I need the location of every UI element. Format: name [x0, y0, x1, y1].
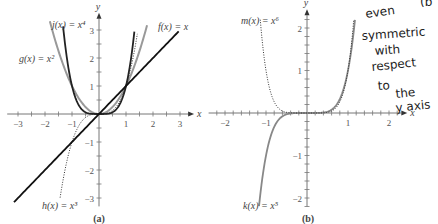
x-tick-label: −1	[261, 118, 271, 128]
y-tick-label: −1	[292, 151, 302, 161]
x-tick-label: −2	[40, 119, 50, 129]
y-tick-label: 2	[298, 24, 303, 34]
label-h: h(x) = x³	[42, 200, 78, 212]
label-k: k(x) = x⁵	[243, 200, 279, 212]
x-axis-label: x	[196, 108, 202, 119]
x-tick-label: 3	[178, 119, 183, 129]
y-tick-label: 1	[90, 82, 95, 92]
y-tick-label: −2	[84, 166, 94, 176]
handwritten-line: even	[364, 3, 395, 21]
x-tick-label: 2	[387, 118, 392, 128]
y-tick-label: −1	[84, 138, 94, 148]
y-tick-label: 1	[298, 66, 303, 76]
y-axis-arrow-icon	[305, 9, 310, 15]
handwritten-line: y axis	[395, 97, 431, 115]
x-tick-label: 1	[124, 119, 129, 129]
x-tick-label: −1	[67, 119, 77, 129]
y-tick-label: 3	[90, 26, 95, 36]
handwritten-fragment: (b	[420, 0, 432, 9]
handwritten-note: evensymmetricwithrespecttothey axis(b	[361, 0, 432, 115]
x-tick-label: 1	[346, 118, 351, 128]
x-tick-label: −2	[220, 118, 230, 128]
label-j: j(x) = x⁴	[50, 19, 86, 31]
handwritten-line: to	[377, 78, 390, 93]
y-axis-label: y	[95, 1, 101, 12]
label-g: g(x) = x²	[19, 53, 55, 65]
y-tick-label: 2	[90, 54, 95, 64]
label-m: m(x) = x⁶	[241, 15, 280, 27]
handwritten-line: with	[374, 42, 400, 58]
handwritten-line: respect	[371, 55, 417, 74]
y-tick-label: −3	[84, 194, 94, 204]
panel-label-a: (a)	[93, 213, 105, 224]
x-tick-label: −3	[13, 119, 23, 129]
figure: −3−2−1123−3−2−1123xyj(x) = x⁴g(x) = x²f(…	[0, 0, 438, 224]
y-tick-label: −2	[292, 194, 302, 204]
x-axis-arrow-icon	[188, 112, 194, 117]
label-f: f(x) = x	[158, 21, 189, 33]
handwritten-line: symmetric	[361, 25, 426, 43]
y-axis-label: y	[303, 0, 309, 8]
panel-a-chart: −3−2−1123−3−2−1123xyj(x) = x⁴g(x) = x²f(…	[7, 1, 202, 224]
y-axis-arrow-icon	[97, 13, 102, 19]
panel-label-b: (b)	[302, 213, 314, 224]
x-tick-label: 2	[151, 119, 156, 129]
